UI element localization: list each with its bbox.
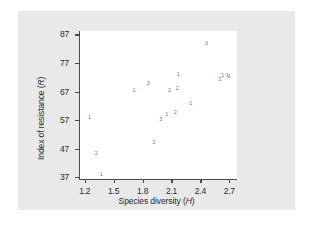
x-axis-line (79, 179, 237, 180)
y-tick (75, 34, 79, 35)
x-axis-title: Species diversity (H) (0, 196, 313, 206)
data-point: 2 (95, 152, 98, 158)
x-tick-label: 2.1 (159, 186, 183, 196)
data-point: 3 (205, 42, 208, 48)
y-tick (75, 120, 79, 121)
figure-panel: 121132312221132111 374757677787 1.21.51.… (0, 0, 313, 227)
data-point: 3 (147, 81, 150, 87)
x-tick (200, 179, 201, 183)
data-point: 1 (88, 116, 91, 122)
data-point: 1 (132, 88, 135, 94)
x-tick (171, 179, 172, 183)
x-tick (85, 179, 86, 183)
x-tick-label: 2.4 (188, 186, 212, 196)
x-tick-label: 1.8 (131, 186, 155, 196)
y-tick-label: 57 (47, 115, 69, 125)
data-point: 2 (153, 140, 156, 146)
x-tick (143, 179, 144, 183)
y-tick-label: 37 (47, 172, 69, 182)
data-point: 1 (177, 72, 180, 78)
x-tick (229, 179, 230, 183)
y-tick-label: 77 (47, 58, 69, 68)
y-axis-line (79, 31, 80, 180)
data-point: 2 (174, 111, 177, 117)
x-tick-label: 1.5 (102, 186, 126, 196)
y-tick-label: 47 (47, 144, 69, 154)
data-point: 1 (228, 74, 231, 80)
x-tick-label: 2.7 (217, 186, 241, 196)
data-point: 2 (176, 86, 179, 92)
data-point: 2 (168, 88, 171, 94)
data-point: 3 (159, 117, 162, 123)
data-point: 1 (189, 102, 192, 108)
y-tick (75, 149, 79, 150)
y-tick (75, 63, 79, 64)
data-point: 1 (100, 172, 103, 178)
y-axis-title: Index of resistance (R) (36, 77, 46, 160)
axes: 121132312221132111 (79, 31, 237, 180)
data-point: 1 (165, 112, 168, 118)
data-point: 1 (221, 73, 224, 79)
data-point: 2 (218, 78, 221, 84)
x-tick (114, 179, 115, 183)
x-tick-label: 1.2 (73, 186, 97, 196)
y-tick (75, 92, 79, 93)
y-tick (75, 177, 79, 178)
y-tick-label: 67 (47, 87, 69, 97)
y-tick-label: 87 (47, 29, 69, 39)
